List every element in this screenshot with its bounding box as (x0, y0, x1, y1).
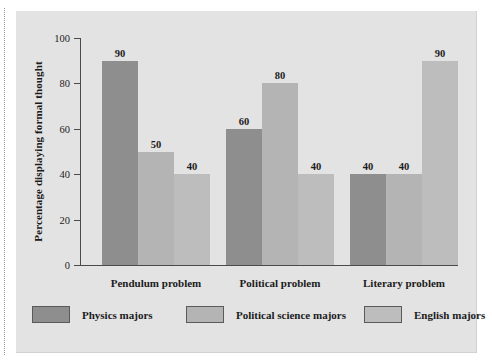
legend-item-english-majors: English majors (364, 306, 485, 323)
bar-group-political: 60 80 40 Political problem (226, 38, 334, 265)
bar-literary-physics: 40 (350, 174, 386, 265)
x-tick-label-political: Political problem (240, 277, 321, 289)
x-tick-label-literary: Literary problem (363, 277, 445, 289)
bar-political-english: 40 (298, 174, 334, 265)
bar-value-political-polisci: 80 (275, 70, 286, 81)
y-axis-line (80, 38, 81, 265)
bar-literary-english: 90 (422, 61, 458, 265)
y-tick-label-60: 60 (60, 124, 71, 135)
y-tick-80: 80 (74, 83, 80, 84)
y-tick-60: 60 (74, 129, 80, 130)
bar-political-physics: 60 (226, 129, 262, 265)
chart-legend: Physics majors Political science majors … (16, 306, 476, 336)
y-tick-label-0: 0 (65, 260, 70, 271)
bar-pendulum-physics: 90 (102, 61, 138, 265)
bar-value-pendulum-physics: 90 (115, 48, 126, 59)
y-tick-label-40: 40 (60, 169, 71, 180)
y-tick-label-80: 80 (60, 79, 71, 90)
legend-label-english-majors: English majors (414, 309, 485, 321)
legend-item-political-science-majors: Political science majors (186, 306, 346, 323)
bar-value-pendulum-polisci: 50 (151, 139, 162, 150)
y-tick-100: 100 (74, 38, 80, 39)
legend-swatch-physics-majors (32, 306, 70, 323)
bar-value-political-english: 40 (311, 161, 322, 172)
chart-figure: Percentage displaying formal thought 100… (0, 0, 492, 363)
x-tick-label-pendulum: Pendulum problem (111, 277, 202, 289)
y-axis-title: Percentage displaying formal thought (32, 38, 46, 265)
bar-group-pendulum: 90 50 40 Pendulum problem (102, 38, 210, 265)
bar-group-literary: 40 40 90 Literary problem (350, 38, 458, 265)
legend-swatch-english-majors (364, 306, 402, 323)
y-tick-label-100: 100 (54, 33, 70, 44)
bar-value-political-physics: 60 (239, 116, 250, 127)
y-tick-label-20: 20 (60, 215, 71, 226)
y-tick-20: 20 (74, 220, 80, 221)
legend-label-physics-majors: Physics majors (82, 309, 153, 321)
plot-area: 100 80 60 40 20 0 90 50 40 Pendu (80, 38, 458, 265)
legend-swatch-political-science-majors (186, 306, 224, 323)
bar-pendulum-polisci: 50 (138, 152, 174, 266)
page-edge-rule (4, 8, 5, 355)
y-tick-0: 0 (74, 265, 80, 266)
legend-label-political-science-majors: Political science majors (236, 309, 346, 321)
y-tick-40: 40 (74, 174, 80, 175)
bar-value-literary-english: 90 (435, 48, 446, 59)
bar-value-pendulum-english: 40 (187, 161, 198, 172)
bar-value-literary-physics: 40 (363, 161, 374, 172)
bar-pendulum-english: 40 (174, 174, 210, 265)
bar-literary-polisci: 40 (386, 174, 422, 265)
bar-political-polisci: 80 (262, 83, 298, 265)
bar-value-literary-polisci: 40 (399, 161, 410, 172)
legend-item-physics-majors: Physics majors (32, 306, 153, 323)
x-axis-line (80, 265, 458, 266)
